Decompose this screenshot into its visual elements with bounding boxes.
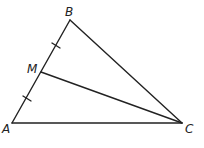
label-a: A bbox=[1, 122, 10, 136]
triangle-diagram: B M A C bbox=[0, 0, 204, 148]
segment-bc bbox=[70, 20, 182, 123]
label-m: M bbox=[27, 62, 38, 76]
segment-mc bbox=[41, 72, 182, 123]
label-c: C bbox=[185, 122, 194, 136]
label-b: B bbox=[65, 5, 73, 19]
